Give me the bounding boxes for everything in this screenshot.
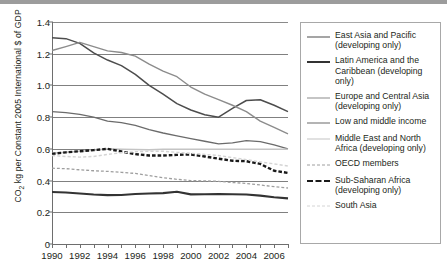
y-tick-label: 0: [24, 239, 50, 250]
x-tick-mark: [94, 244, 95, 248]
x-tick-mark: [52, 244, 53, 248]
chart-legend: East Asia and Pacific (developing only)L…: [300, 22, 441, 244]
x-tick-mark: [149, 244, 150, 248]
x-tick-label: 1992: [69, 250, 90, 261]
y-tick-mark: [48, 117, 53, 118]
legend-item[interactable]: OECD members: [307, 158, 436, 170]
x-tick-mark: [135, 244, 136, 248]
plot-region: CO2 kg per Constant 2005 International $…: [0, 4, 296, 276]
y-tick-mark: [48, 22, 53, 23]
legend-item-label: Europe and Central Asia (developing only…: [335, 91, 436, 112]
series-line: [52, 168, 288, 188]
series-line: [52, 42, 288, 133]
legend-item-label: OECD members: [335, 158, 399, 168]
x-tick-label: 2004: [236, 250, 257, 261]
x-tick-mark: [205, 244, 206, 248]
x-tick-mark: [232, 244, 233, 248]
legend-line-swatch: [307, 201, 330, 212]
legend-item-label: Low and middle income: [335, 116, 426, 126]
x-tick-mark: [66, 244, 67, 248]
legend-item[interactable]: Europe and Central Asia (developing only…: [307, 91, 436, 112]
x-tick-mark: [274, 244, 275, 248]
x-tick-mark: [108, 244, 109, 248]
legend-item-label: Sub-Saharan Africa (developing only): [335, 175, 436, 196]
x-tick-mark: [246, 244, 247, 248]
y-tick-label: 0.8: [24, 112, 50, 123]
y-tick-label: 1.4: [24, 17, 50, 28]
y-axis-tick-labels: 00.20.40.60.81.01.21.4: [20, 4, 50, 276]
x-tick-label: 2000: [180, 250, 201, 261]
y-tick-label: 1.0: [24, 80, 50, 91]
x-tick-mark: [219, 244, 220, 248]
legend-item[interactable]: East Asia and Pacific (developing only): [307, 30, 436, 51]
legend-item-label: South Asia: [335, 200, 377, 210]
series-line: [52, 192, 288, 199]
x-tick-mark: [177, 244, 178, 248]
x-tick-mark: [121, 244, 122, 248]
legend-line-swatch: [307, 159, 330, 170]
legend-item[interactable]: Middle East and North Africa (developing…: [307, 133, 436, 154]
x-tick-mark: [163, 244, 164, 248]
legend-line-swatch: [307, 92, 330, 103]
y-tick-mark: [48, 53, 53, 54]
x-tick-mark: [80, 244, 81, 248]
x-tick-mark: [260, 244, 261, 248]
x-tick-label: 2002: [208, 250, 229, 261]
y-tick-label: 0.2: [24, 207, 50, 218]
legend-item-label: Latin America and the Caribbean (develop…: [335, 55, 436, 86]
series-line: [52, 112, 288, 149]
legend-line-swatch: [307, 134, 330, 145]
legend-item[interactable]: Sub-Saharan Africa (developing only): [307, 175, 436, 196]
legend-item-label: Middle East and North Africa (developing…: [335, 133, 436, 154]
legend-item[interactable]: South Asia: [307, 200, 436, 212]
y-tick-label: 0.4: [24, 175, 50, 186]
x-tick-mark: [191, 244, 192, 248]
y-tick-mark: [48, 212, 53, 213]
series-line: [52, 149, 288, 173]
series-lines: [52, 22, 288, 244]
legend-line-swatch: [307, 31, 330, 42]
y-tick-mark: [48, 85, 53, 86]
axes-box: 199019921994199619982000200220042006: [52, 22, 288, 244]
x-tick-mark: [288, 244, 289, 248]
y-tick-mark: [48, 148, 53, 149]
x-tick-label: 1990: [41, 250, 62, 261]
y-tick-label: 0.6: [24, 143, 50, 154]
legend-line-swatch: [307, 176, 330, 187]
legend-line-swatch: [307, 117, 330, 128]
legend-item[interactable]: Latin America and the Caribbean (develop…: [307, 55, 436, 86]
x-tick-label: 1996: [125, 250, 146, 261]
series-line: [52, 38, 288, 117]
series-line: [52, 151, 288, 166]
x-tick-label: 1994: [97, 250, 118, 261]
legend-item[interactable]: Low and middle income: [307, 116, 436, 128]
y-tick-mark: [48, 180, 53, 181]
y-tick-label: 1.2: [24, 48, 50, 59]
x-tick-label: 1998: [152, 250, 173, 261]
legend-item-label: East Asia and Pacific (developing only): [335, 30, 436, 51]
line-chart-figure: CO2 kg per Constant 2005 International $…: [0, 4, 447, 276]
x-tick-label: 2006: [263, 250, 284, 261]
x-axis-line: [52, 244, 288, 245]
legend-line-swatch: [307, 56, 330, 67]
